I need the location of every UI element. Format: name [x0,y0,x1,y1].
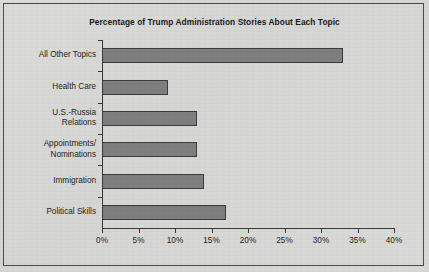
chart-title: Percentage of Trump Administration Stori… [0,17,429,27]
category-label: Immigration [0,176,96,187]
y-axis-tick [98,103,102,104]
x-axis-tick [212,229,213,233]
y-axis-tick [98,165,102,166]
category-label: Appointments/ Nominations [0,139,96,160]
bar-row [102,80,394,95]
bar-row [102,111,394,126]
x-axis-tick-label: 5% [126,236,152,245]
x-axis-tick-label: 35% [345,236,371,245]
x-axis-tick-label: 30% [308,236,334,245]
figure-border [3,3,424,266]
y-axis-tick [98,40,102,41]
y-axis-line [102,40,103,229]
bar [102,205,226,220]
bar [102,174,204,189]
x-axis-tick-label: 0% [89,236,115,245]
x-axis-tick [102,229,103,233]
category-label: Political Skills [0,207,96,218]
bar-row [102,174,394,189]
x-axis-tick [285,229,286,233]
bar [102,142,197,157]
bar [102,48,343,63]
x-axis-tick [394,229,395,233]
x-axis-tick-label: 25% [272,236,298,245]
bar [102,80,168,95]
x-axis-tick-label: 20% [235,236,261,245]
bar-row [102,205,394,220]
category-label: Health Care [0,82,96,93]
x-axis-tick [175,229,176,233]
y-axis-tick [98,134,102,135]
x-axis-tick-label: 10% [162,236,188,245]
bar [102,111,197,126]
bar-row [102,48,394,63]
x-axis-tick [248,229,249,233]
bar-row [102,142,394,157]
x-axis-tick-label: 40% [381,236,407,245]
x-axis-tick [139,229,140,233]
category-label: All Other Topics [0,50,96,61]
category-label: U.S.-Russia Relations [0,108,96,129]
x-axis-tick [358,229,359,233]
x-axis-tick-label: 15% [199,236,225,245]
chart-figure: Percentage of Trump Administration Stori… [0,0,429,272]
x-axis-tick [321,229,322,233]
y-axis-tick [98,71,102,72]
y-axis-tick [98,197,102,198]
